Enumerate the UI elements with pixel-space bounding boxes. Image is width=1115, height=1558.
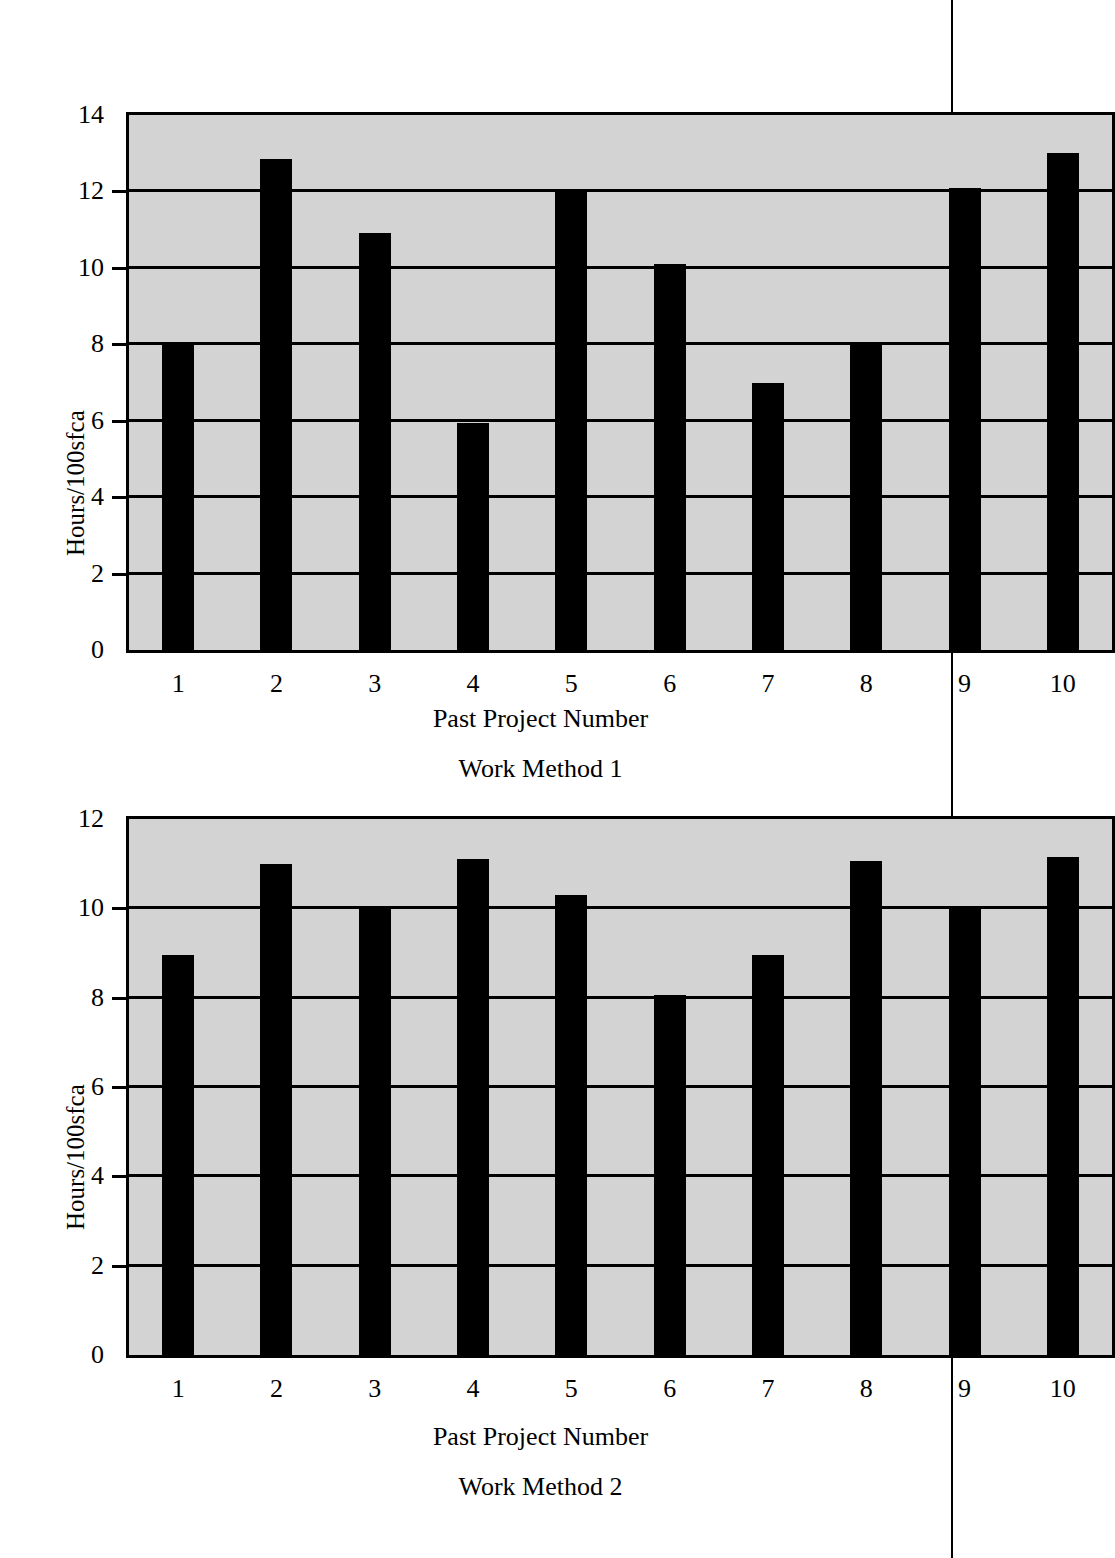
bar: [1047, 857, 1079, 1355]
y-tick-label: 10: [30, 893, 104, 923]
x-axis-title: Past Project Number: [126, 1422, 955, 1452]
y-tick-label: 0: [30, 1340, 104, 1370]
y-tick: [112, 997, 126, 1000]
y-tick-label: 8: [30, 983, 104, 1013]
plot-area: [126, 112, 1115, 653]
x-tick-label: 6: [621, 1374, 719, 1404]
bar: [260, 864, 292, 1355]
y-tick: [112, 1086, 126, 1089]
bar: [359, 908, 391, 1355]
x-tick-label: 6: [621, 669, 719, 699]
x-tick-label: 2: [227, 1374, 325, 1404]
x-tick-label: 4: [424, 669, 522, 699]
bar: [457, 423, 489, 650]
bar: [555, 190, 587, 650]
y-tick-label: 12: [30, 176, 104, 206]
bar: [457, 859, 489, 1355]
x-tick-label: 10: [1014, 669, 1112, 699]
plot-area: [126, 816, 1115, 1358]
y-tick-label: 2: [30, 1251, 104, 1281]
bar: [850, 342, 882, 650]
chart-caption: Work Method 1: [126, 754, 955, 784]
x-tick-label: 4: [424, 1374, 522, 1404]
x-tick-label: 7: [719, 1374, 817, 1404]
y-tick-label: 4: [30, 482, 104, 512]
bar: [654, 264, 686, 650]
bar: [752, 383, 784, 651]
bar: [1047, 153, 1079, 650]
y-tick-label: 0: [30, 635, 104, 665]
y-tick: [112, 420, 126, 423]
bar: [949, 188, 981, 650]
y-tick: [112, 1175, 126, 1178]
x-tick-label: 9: [915, 669, 1013, 699]
bar: [850, 861, 882, 1355]
bar: [359, 233, 391, 650]
y-tick: [112, 343, 126, 346]
y-tick-label: 8: [30, 329, 104, 359]
plot-inner: [129, 819, 1112, 1355]
bar: [162, 955, 194, 1355]
x-tick-label: 9: [915, 1374, 1013, 1404]
y-axis-title: Hours/100sfca: [62, 1084, 90, 1230]
y-tick: [112, 573, 126, 576]
bar: [949, 906, 981, 1355]
y-tick: [112, 496, 126, 499]
plot-inner: [129, 115, 1112, 650]
y-tick-label: 12: [30, 804, 104, 834]
x-tick-label: 8: [817, 1374, 915, 1404]
x-tick-label: 1: [129, 1374, 227, 1404]
x-tick-label: 2: [227, 669, 325, 699]
x-tick-label: 1: [129, 669, 227, 699]
x-tick-label: 7: [719, 669, 817, 699]
y-tick-label: 2: [30, 559, 104, 589]
bar: [162, 344, 194, 650]
y-tick: [112, 267, 126, 270]
y-tick: [112, 1265, 126, 1268]
bar: [555, 895, 587, 1355]
y-tick: [112, 907, 126, 910]
x-tick-label: 3: [326, 1374, 424, 1404]
x-tick-label: 8: [817, 669, 915, 699]
y-tick: [112, 190, 126, 193]
x-tick-label: 10: [1014, 1374, 1112, 1404]
chart-caption: Work Method 2: [126, 1472, 955, 1502]
bar: [260, 159, 292, 650]
x-tick-label: 5: [522, 1374, 620, 1404]
y-tick-label: 14: [30, 100, 104, 130]
x-tick-label: 5: [522, 669, 620, 699]
y-tick-label: 10: [30, 253, 104, 283]
y-tick-label: 6: [30, 1072, 104, 1102]
bar: [654, 995, 686, 1355]
y-tick-label: 4: [30, 1161, 104, 1191]
x-axis-title: Past Project Number: [126, 704, 955, 734]
bar: [752, 955, 784, 1355]
x-tick-label: 3: [326, 669, 424, 699]
y-tick-label: 6: [30, 406, 104, 436]
